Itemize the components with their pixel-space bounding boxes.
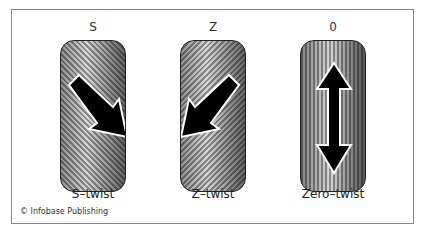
z-twist-yarn	[180, 40, 246, 192]
copyright-credit: © Infobase Publishing	[20, 207, 108, 216]
s-twist-yarn	[60, 40, 126, 192]
zero-top-label: 0	[300, 20, 366, 34]
arrow-down-right-icon	[61, 41, 126, 192]
arrow-up-down-icon	[301, 41, 366, 192]
s-twist-label: S–twist	[38, 187, 148, 201]
s-top-label: S	[60, 20, 126, 34]
zero-twist-yarn	[300, 40, 366, 192]
z-top-label: Z	[180, 20, 246, 34]
z-twist-label: Z–twist	[158, 187, 268, 201]
zero-twist-label: Zero–twist	[278, 187, 388, 201]
arrow-down-left-icon	[181, 41, 246, 192]
